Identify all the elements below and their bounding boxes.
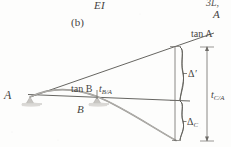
support-b-icon xyxy=(88,97,109,107)
delta-prime-label: Δ′ xyxy=(188,69,197,79)
beam-deflection-figure: EI (b) 3L, A tan A tan B tB/A A B Δ′ ΔC … xyxy=(0,0,231,147)
deviation-b-from-a-subscript: B/A xyxy=(102,88,112,95)
tangent-b-label-text: tan B xyxy=(71,83,92,94)
tangent-a-label-text: tan A xyxy=(191,28,212,39)
brace-delta-c xyxy=(180,101,184,140)
flexural-rigidity-label: EI xyxy=(94,0,105,11)
support-a-icon xyxy=(21,97,42,107)
delta-c-subscript: C xyxy=(193,121,198,128)
scan-artifacts xyxy=(11,14,200,141)
support-b-label: B xyxy=(77,104,84,115)
top-right-label: A xyxy=(213,9,220,20)
deviation-b-from-a-label: tB/A xyxy=(99,84,112,96)
delta-c-label: ΔC xyxy=(187,117,198,129)
delta-prime-mark: ′ xyxy=(194,68,196,79)
support-a-label: A xyxy=(4,89,11,101)
figure-caption: (b) xyxy=(71,17,84,28)
deviation-c-from-a-label: tC/A xyxy=(211,90,224,102)
deviation-c-from-a-subscript: C/A xyxy=(214,94,225,101)
tangent-a-line xyxy=(30,33,214,97)
top-fragment-text: 3L, xyxy=(206,0,219,8)
tangent-a-label: tan A xyxy=(191,29,212,39)
tangent-b-label: tan B xyxy=(71,84,92,94)
